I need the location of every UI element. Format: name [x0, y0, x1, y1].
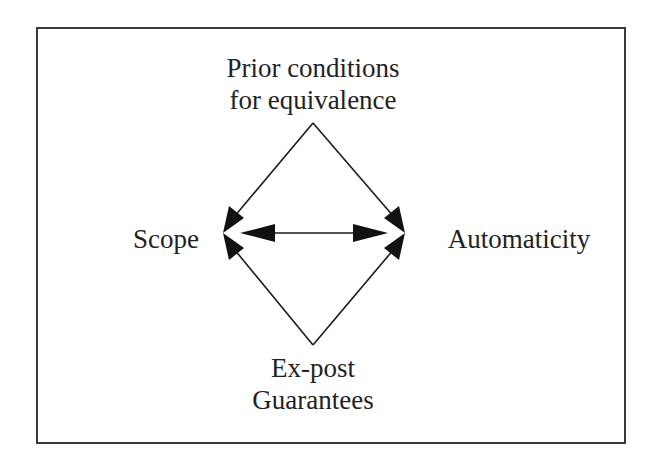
edge-expost-to-automaticity — [313, 249, 394, 345]
edge-expost-to-scope — [234, 249, 313, 345]
arrowhead-right-icon — [353, 224, 388, 242]
arrowhead-icon — [223, 233, 244, 260]
edge-prior-to-scope — [234, 123, 313, 217]
edge-prior-to-automaticity — [313, 123, 394, 217]
arrows-layer — [0, 0, 655, 467]
arrowhead-left-icon — [240, 224, 275, 242]
